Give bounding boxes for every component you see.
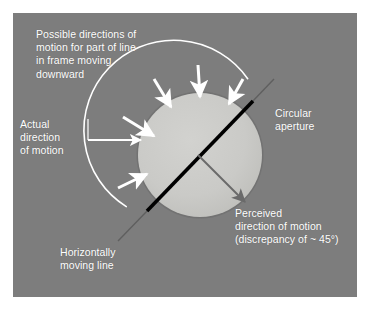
label-perceived-direction: Perceived direction of motion (discrepan… — [235, 207, 360, 247]
figure-root: Possible directions of motion for part o… — [0, 0, 371, 309]
possible-direction-arrow-4 — [198, 65, 200, 97]
label-horizontally-moving-line: Horizontally moving line — [60, 246, 170, 272]
label-possible-directions: Possible directions of motion for part o… — [36, 28, 182, 81]
line-extension-lower — [118, 209, 149, 241]
label-actual-direction: Actual direction of motion — [20, 118, 90, 158]
possible-direction-arrow-5 — [229, 79, 243, 104]
line-extension-upper — [251, 79, 274, 103]
label-circular-aperture: Circular aperture — [275, 107, 355, 133]
possible-direction-arrow-3 — [154, 79, 171, 107]
